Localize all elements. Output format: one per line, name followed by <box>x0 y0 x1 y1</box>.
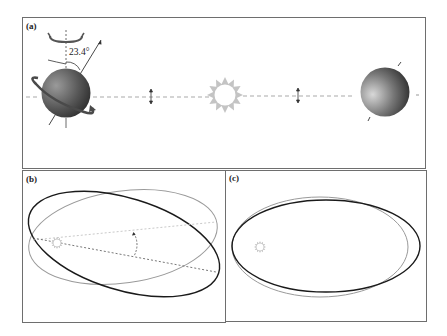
sun-icon-b <box>51 237 63 249</box>
panel-c-diagram <box>232 197 420 297</box>
orbit-ellipse-black <box>16 171 232 317</box>
axis-line-gray <box>33 222 216 240</box>
angle-arc <box>134 233 137 256</box>
panel-b-diagram <box>16 171 232 317</box>
diagram-canvas: 23.4° <box>0 0 447 336</box>
earth-right <box>361 62 410 121</box>
sun-icon <box>207 77 243 113</box>
sun-icon-c <box>254 241 266 253</box>
tilt-angle-label: 23.4° <box>69 47 90 57</box>
